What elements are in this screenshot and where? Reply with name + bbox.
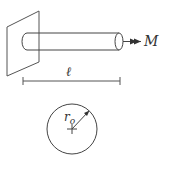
moment-label: M — [144, 34, 158, 48]
fixed-wall — [7, 11, 39, 76]
length-dimension — [23, 77, 120, 85]
radius-label-sub: o — [70, 116, 75, 126]
diagram-canvas: M ℓ ro — [0, 0, 172, 172]
radius-label: ro — [64, 111, 75, 126]
moment-arrow-icon — [123, 39, 141, 45]
diagram-svg — [0, 0, 172, 172]
shaft — [22, 33, 123, 50]
length-label: ℓ — [66, 65, 71, 78]
